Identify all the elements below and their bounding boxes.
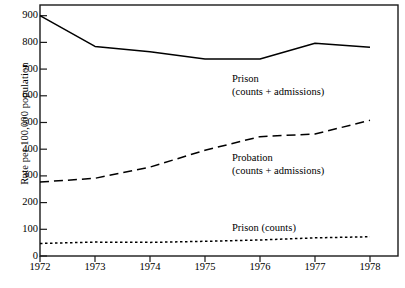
annotation-line-1: Prison (counts) [232,222,296,235]
annotation-line-2: (counts + admissions) [232,165,324,178]
x-tick-label: 1977 [293,262,337,273]
series-line-dotted [40,237,370,244]
series-annotation-prison-counts: Prison (counts) [232,222,296,235]
line-chart: Rate per 100,000 population 010020030040… [0,0,405,288]
x-tick-label: 1978 [348,262,392,273]
x-tick-label: 1976 [238,262,282,273]
y-axis-tick-marks [40,16,47,256]
annotation-line-2: (counts + admissions) [232,86,324,99]
data-series-group [40,16,370,244]
x-tick-label: 1974 [128,262,172,273]
annotation-line-1: Probation [232,152,324,165]
series-annotation-probation-total: Probation (counts + admissions) [232,152,324,177]
plot-area [0,0,405,288]
x-tick-label: 1972 [18,262,62,273]
x-tick-label: 1973 [73,262,117,273]
x-tick-label: 1975 [183,262,227,273]
series-line-solid [40,16,370,59]
annotation-line-1: Prison [232,73,324,86]
series-annotation-prison-total: Prison (counts + admissions) [232,73,324,98]
plot-frame [40,5,398,256]
